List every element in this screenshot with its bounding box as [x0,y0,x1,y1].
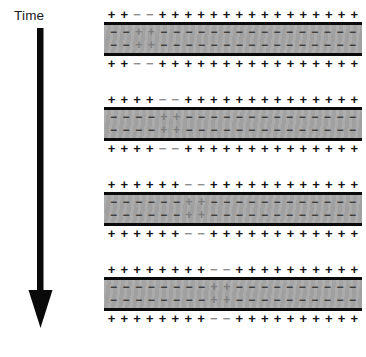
charge-symbol-plus: + [208,227,219,240]
charge-symbol-plus: + [221,57,232,70]
charge-symbol-plus: + [119,227,130,240]
charge-symbol-minus: − [297,210,308,221]
charge-symbol-minus: − [259,112,270,123]
charge-symbol-plus: + [285,263,296,276]
charge-symbol-plus: + [259,93,270,106]
charge-symbol-minus: − [132,8,143,21]
charge-symbol-plus: + [208,57,219,70]
charge-symbol-minus: − [209,112,220,123]
charge-symbol-minus: − [272,112,283,123]
charge-symbol-plus: + [323,312,334,325]
charge-symbol-minus: − [234,295,245,306]
charge-symbol-minus: − [246,112,257,123]
panel-2-outer-bottom-row: ++++−−++++++++++++++ [104,142,362,155]
charge-symbol-plus: + [336,93,347,106]
charge-symbol-minus: − [196,125,207,136]
charge-symbol-minus: − [132,57,143,70]
charge-symbol-plus: + [336,227,347,240]
charge-symbol-minus: − [322,295,333,306]
charge-symbol-minus: − [183,295,194,306]
charge-symbol-plus: + [106,8,117,21]
charge-symbol-plus: + [132,263,143,276]
charge-symbol-minus: − [234,40,245,51]
charge-symbol-minus: − [133,197,144,208]
panel-2-inner-top-row: −−−−++−−−−−−−−−−−−−− [106,112,360,123]
charge-symbol-plus: + [247,312,258,325]
charge-symbol-plus: + [247,178,258,191]
panel-4-outer-top-row: ++++++++−−++++++++++ [104,263,362,276]
charge-symbol-plus: + [285,142,296,155]
charge-symbol-plus: + [323,57,334,70]
charge-symbol-plus: + [144,227,155,240]
charge-symbol-plus: + [298,178,309,191]
charge-symbol-minus: − [272,40,283,51]
charge-symbol-plus: + [311,57,322,70]
charge-symbol-plus: + [195,8,206,21]
charge-symbol-plus: + [272,312,283,325]
charge-symbol-plus: + [285,57,296,70]
charge-symbol-minus: − [347,197,358,208]
charge-symbol-plus: + [119,142,130,155]
charge-symbol-plus: + [298,312,309,325]
charge-symbol-plus: + [221,8,232,21]
charge-symbol-minus: − [183,282,194,293]
charge-symbol-plus: + [157,312,168,325]
panel-1: ++−−++++++++++++++++−−++−−−−−−−−−−−−−−−−… [104,8,362,70]
panel-2-outer-top-row: ++++−−++++++++++++++ [104,93,362,106]
charge-symbol-minus: − [347,210,358,221]
charge-symbol-plus: + [323,8,334,21]
charge-symbol-minus: − [221,312,232,325]
charge-symbol-minus: − [234,27,245,38]
charge-symbol-plus: + [221,142,232,155]
charge-symbol-minus: − [208,312,219,325]
charge-symbol-plus: + [311,142,322,155]
charge-symbol-plus: + [195,312,206,325]
charge-symbol-plus: + [349,57,360,70]
charge-symbol-minus: − [309,125,320,136]
charge-symbol-minus: − [297,197,308,208]
charge-symbol-plus: + [311,8,322,21]
charge-symbol-minus: − [158,282,169,293]
charge-symbol-plus: + [106,263,117,276]
charge-symbol-minus: − [121,125,132,136]
charge-symbol-plus: + [298,93,309,106]
charge-symbol-plus: + [196,197,207,208]
charge-symbol-minus: − [246,210,257,221]
charge-symbol-minus: − [309,27,320,38]
charge-symbol-plus: + [119,93,130,106]
panel-3: ++++++−−++++++++++++−−−−−−++−−−−−−−−−−−−… [104,178,362,240]
charge-symbol-plus: + [195,263,206,276]
charge-symbol-minus: − [121,282,132,293]
charge-symbol-plus: + [234,263,245,276]
charge-symbol-plus: + [183,142,194,155]
charge-symbol-minus: − [133,282,144,293]
charge-symbol-plus: + [157,178,168,191]
charge-symbol-minus: − [157,142,168,155]
charge-symbol-minus: − [158,40,169,51]
panel-3-inner-bottom-row: −−−−−−++−−−−−−−−−−−− [106,210,360,221]
charge-symbol-minus: − [221,197,232,208]
charge-symbol-plus: + [133,27,144,38]
panel-2-inner-bottom-row: −−−−++−−−−−−−−−−−−−− [106,125,360,136]
charge-symbol-minus: − [347,112,358,123]
charge-symbol-plus: + [349,227,360,240]
charge-symbol-plus: + [221,178,232,191]
charge-symbol-minus: − [108,295,119,306]
charge-symbol-minus: − [284,112,295,123]
charge-symbol-plus: + [247,93,258,106]
charge-symbol-minus: − [334,295,345,306]
charge-symbol-minus: − [171,197,182,208]
charge-symbol-minus: − [196,112,207,123]
panel-3-slab: −−−−−−++−−−−−−−−−−−−−−−−−−++−−−−−−−−−−−− [104,192,362,226]
charge-symbol-plus: + [171,112,182,123]
charge-symbol-plus: + [259,8,270,21]
charge-symbol-plus: + [132,93,143,106]
charge-symbol-plus: + [323,93,334,106]
charge-symbol-plus: + [272,93,283,106]
charge-symbol-plus: + [259,142,270,155]
charge-symbol-minus: − [108,282,119,293]
charge-symbol-minus: − [284,282,295,293]
charge-symbol-plus: + [221,93,232,106]
charge-symbol-minus: − [171,27,182,38]
charge-symbol-minus: − [195,178,206,191]
